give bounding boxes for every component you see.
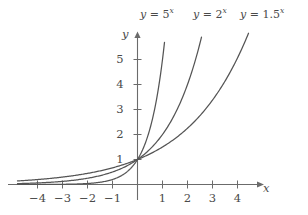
curve-2-pow-x bbox=[18, 37, 202, 184]
x-tick-label-4: 4 bbox=[230, 193, 245, 205]
curve-label-2-eq: = bbox=[199, 8, 215, 21]
y-tick-label-5: 5 bbox=[113, 54, 127, 66]
curves-group bbox=[18, 33, 249, 184]
x-tick-label-minus-2: −2 bbox=[77, 193, 98, 205]
plot-canvas bbox=[0, 0, 308, 215]
curve-label-1-eq: = bbox=[146, 8, 162, 21]
x-tick-label-2: 2 bbox=[180, 193, 195, 205]
axes-group bbox=[8, 32, 264, 201]
x-tick-label-minus-1: −1 bbox=[102, 193, 123, 205]
curve-1p5-pow-x bbox=[18, 33, 249, 181]
exponential-functions-figure: y x 1 2 3 4 5 −4 −3 −2 −1 1 2 3 4 y = 5x… bbox=[0, 0, 308, 215]
curve-label-2-pow-x: y = 2x bbox=[193, 9, 227, 20]
curve-label-3-exp: x bbox=[280, 6, 284, 15]
x-tick-label-minus-4: −4 bbox=[27, 193, 48, 205]
y-axis-arrowhead bbox=[134, 32, 140, 39]
y-tick-label-3: 3 bbox=[113, 104, 127, 116]
curve-label-1p5-pow-x: y = 1.5x bbox=[240, 9, 284, 20]
curve-label-3-eq: = bbox=[246, 8, 262, 21]
curve-5-pow-x bbox=[18, 42, 165, 184]
curve-label-3-base: 1.5 bbox=[262, 8, 280, 21]
y-tick-label-4: 4 bbox=[113, 79, 127, 91]
y-tick-label-2: 2 bbox=[113, 129, 127, 141]
x-tick-label-3: 3 bbox=[205, 193, 220, 205]
curve-label-1-exp: x bbox=[169, 6, 173, 15]
x-tick-label-1: 1 bbox=[155, 193, 170, 205]
x-axis-label: x bbox=[263, 183, 270, 195]
y-tick-label-1: 1 bbox=[113, 154, 127, 166]
y-axis-label: y bbox=[122, 29, 129, 41]
curve-label-2-exp: x bbox=[222, 6, 226, 15]
x-tick-label-minus-3: −3 bbox=[52, 193, 73, 205]
curve-label-5-pow-x: y = 5x bbox=[140, 9, 174, 20]
